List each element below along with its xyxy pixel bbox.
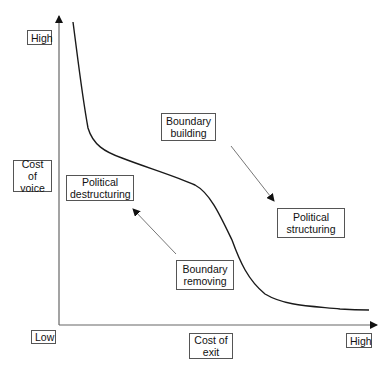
y-axis-high-label: High [27,30,52,45]
process-boundary-removing: Boundary removing [176,260,234,290]
x-axis-high-label: High [346,333,372,348]
y-axis-title: Cost of voice [13,160,52,192]
boundary-removing-arrow [133,209,176,254]
y-axis-high-text: High [31,32,48,44]
process-line-2: building [165,127,212,139]
region-line-2: destructuring [70,188,130,200]
origin-low-label: Low [31,330,56,344]
x-axis-title-line-1: Cost of [193,334,229,346]
region-line-1: Political [281,211,341,223]
process-line-2: removing [180,275,230,287]
region-political-structuring: Political structuring [277,208,345,238]
diagram-canvas [0,0,387,371]
region-line-1: Political [70,176,130,188]
region-political-destructuring: Political destructuring [66,175,134,201]
region-line-2: structuring [281,223,341,235]
process-boundary-building: Boundary building [161,113,216,141]
boundary-building-arrow [231,146,274,201]
process-line-1: Boundary [180,263,230,275]
y-axis-title-line-2: voice [17,182,48,194]
y-axis-title-line-1: Cost of [17,158,48,182]
x-axis-title-line-2: exit [193,346,229,358]
origin-low-text: Low [35,331,52,343]
x-axis-title: Cost of exit [189,333,233,359]
x-axis-high-text: High [350,335,368,347]
process-line-1: Boundary [165,115,212,127]
